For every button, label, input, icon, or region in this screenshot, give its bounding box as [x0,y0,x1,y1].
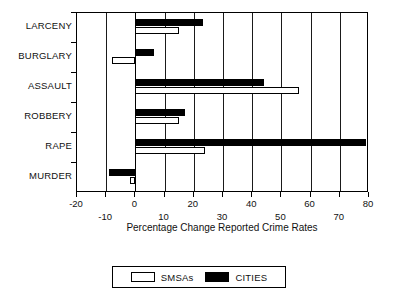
y-tick [71,162,76,163]
x-tick-label-60: 60 [304,198,315,209]
y-tick [71,12,76,13]
bar-group [77,103,367,133]
category-label-assault: ASSAULT [4,81,72,91]
x-tick-50 [280,192,281,197]
x-tick-40 [251,192,252,197]
y-tick [71,102,76,103]
x-tick-20 [193,192,194,197]
bar-smsas-larceny [135,27,179,34]
bar-smsas-rape [135,147,205,154]
open-square-icon [131,272,155,282]
x-tick-label-50: 50 [275,211,286,222]
category-label-rape: RAPE [4,141,72,151]
x-tick-label-70: 70 [334,211,345,222]
x-axis-title: Percentage Change Reported Crime Rates [76,222,368,233]
bar-smsas-assault [135,87,299,94]
bar-smsas-burglary [112,57,135,64]
bar-cities-larceny [135,19,202,26]
plot-area [76,12,368,192]
bar-group [77,43,367,73]
filled-square-icon [205,272,229,282]
x-tick--10 [105,192,106,197]
bar-group [77,13,367,43]
category-label-robbery: ROBBERY [4,111,72,121]
bar-group [77,163,367,193]
x-tick-label-10: 10 [158,211,169,222]
x-tick-label--20: -20 [69,198,83,209]
bar-cities-rape [135,139,366,146]
x-tick-label-30: 30 [217,211,228,222]
legend-entry-cities: CITIES [205,272,267,283]
legend-label-smsas: SMSAs [161,272,194,283]
legend-label-cities: CITIES [235,272,267,283]
crime-rates-bar-chart: LARCENYBURGLARYASSAULTROBBERYRAPEMURDER … [0,0,395,303]
x-tick-60 [310,192,311,197]
bar-group [77,133,367,163]
category-label-larceny: LARCENY [4,21,72,31]
x-tick-70 [339,192,340,197]
bar-cities-murder [109,169,135,176]
x-tick-label--10: -10 [98,211,112,222]
bar-smsas-murder [130,177,136,184]
x-tick-label-0: 0 [132,198,137,209]
x-tick-label-20: 20 [188,198,199,209]
bar-cities-robbery [135,109,185,116]
bar-smsas-robbery [135,117,179,124]
category-label-murder: MURDER [4,171,72,181]
x-tick-label-80: 80 [363,198,374,209]
legend-entry-smsas: SMSAs [131,272,194,283]
x-tick-30 [222,192,223,197]
y-tick [71,72,76,73]
chart-legend: SMSAs CITIES [112,266,286,288]
y-tick [71,42,76,43]
category-axis-labels: LARCENYBURGLARYASSAULTROBBERYRAPEMURDER [0,12,72,192]
bar-cities-burglary [135,49,154,56]
category-label-burglary: BURGLARY [4,51,72,61]
bar-group [77,73,367,103]
bar-cities-assault [135,79,263,86]
y-tick [71,132,76,133]
x-tick-label-40: 40 [246,198,257,209]
x-tick--20 [76,192,77,197]
x-tick-10 [164,192,165,197]
x-tick-80 [368,192,369,197]
x-tick-0 [134,192,135,197]
